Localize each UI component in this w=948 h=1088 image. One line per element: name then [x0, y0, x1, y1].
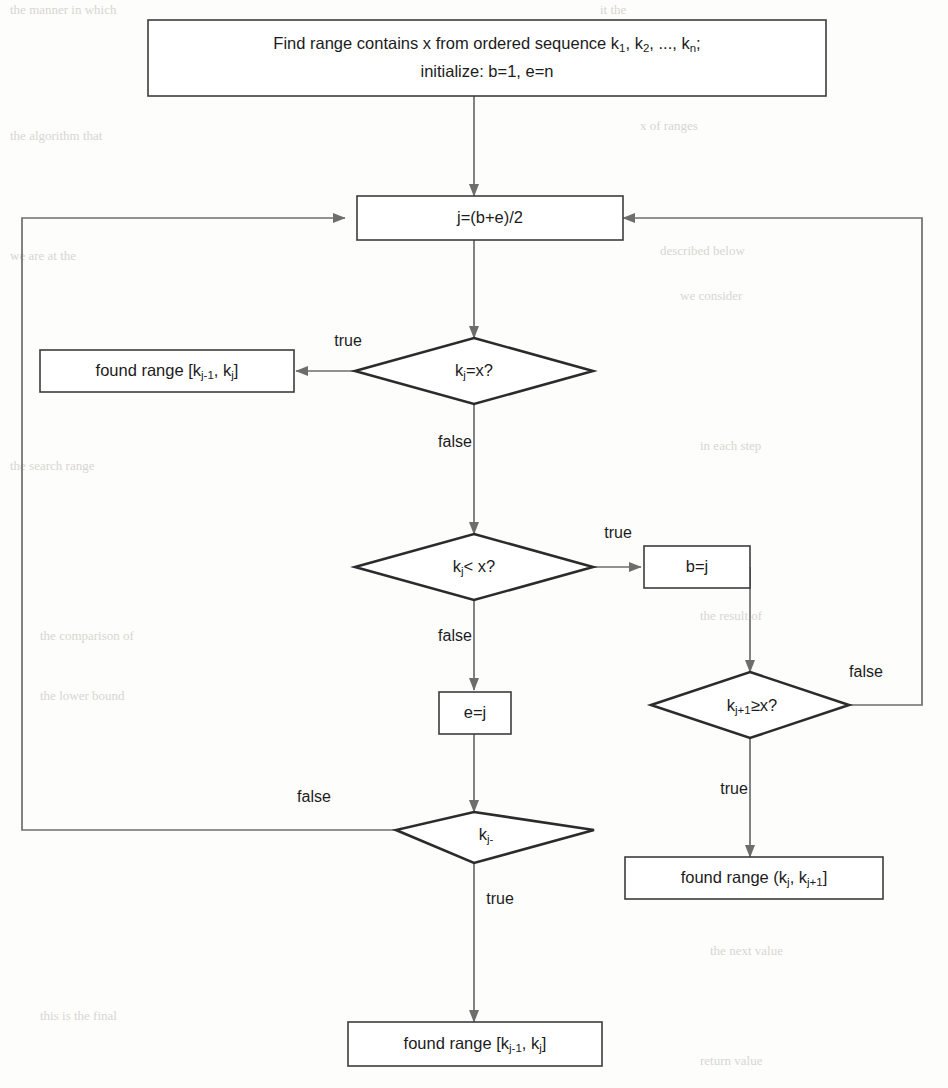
label-less-false: false	[438, 627, 472, 644]
svg-text:x of ranges: x of ranges	[640, 118, 698, 133]
set-e-label: e=j	[464, 703, 486, 721]
node-test-less[interactable]: kj< x?	[355, 534, 593, 600]
node-found-bottom[interactable]: found range [kj-1, kj]	[348, 1022, 602, 1066]
test-less-label: kj< x?	[453, 557, 495, 577]
svg-text:the manner in which: the manner in which	[10, 2, 117, 17]
svg-text:described below: described below	[660, 243, 745, 258]
node-set-e[interactable]: e=j	[439, 692, 511, 734]
label-prev-false: false	[297, 788, 331, 805]
svg-text:it the: it the	[600, 2, 627, 17]
svg-text:we consider: we consider	[680, 288, 743, 303]
start-line-2: initialize: b=1, e=n	[420, 62, 553, 80]
svg-text:the comparison of: the comparison of	[40, 628, 135, 643]
set-b-label: b=j	[686, 557, 708, 575]
node-found-left-upper[interactable]: found range [kj-1, kj]	[40, 350, 294, 392]
svg-text:the result of: the result of	[700, 608, 763, 623]
edge-prev-false-loop	[22, 218, 399, 830]
svg-text:in each step: in each step	[700, 438, 761, 453]
svg-text:the algorithm that: the algorithm that	[10, 128, 103, 143]
found-bottom-label: found range [kj-1, kj]	[404, 1034, 547, 1054]
svg-text:we are at the: we are at the	[10, 248, 76, 263]
label-equal-false: false	[438, 433, 472, 450]
svg-text:return value: return value	[700, 1053, 763, 1068]
svg-text:this is the final: this is the final	[40, 1008, 117, 1023]
label-less-true: true	[604, 524, 632, 541]
node-start[interactable]: Find range contains x from ordered seque…	[148, 20, 826, 96]
label-next-true: true	[720, 780, 748, 797]
found-left-upper-label: found range [kj-1, kj]	[96, 361, 239, 381]
node-test-equal[interactable]: kj=x?	[355, 338, 593, 404]
test-equal-label: kj=x?	[455, 361, 493, 381]
svg-text:the next value: the next value	[710, 943, 783, 958]
node-test-next-ge[interactable]: kj+1≥x?	[651, 672, 849, 738]
edge-next-false-loop	[623, 218, 922, 705]
scan-background-artifacts: the manner in which it the or the sequen…	[10, 2, 783, 1068]
edge-labels: true false true false false true false t…	[297, 332, 883, 907]
flowchart-diagram: the manner in which it the or the sequen…	[0, 0, 948, 1088]
label-prev-true: true	[486, 890, 514, 907]
node-compute-j[interactable]: j=(b+e)/2	[357, 196, 623, 240]
compute-j-label: j=(b+e)/2	[456, 208, 523, 226]
node-test-prev[interactable]: kj-	[396, 812, 594, 863]
start-line-1: Find range contains x from ordered seque…	[273, 34, 700, 54]
start-box-shape	[148, 20, 826, 96]
found-right-label: found range (kj, kj+1]	[681, 868, 828, 888]
svg-text:the lower bound: the lower bound	[40, 688, 125, 703]
label-equal-true: true	[334, 332, 362, 349]
test-prev-diamond-shape	[396, 812, 594, 863]
node-set-b[interactable]: b=j	[644, 546, 750, 588]
node-found-right[interactable]: found range (kj, kj+1]	[625, 857, 883, 899]
label-next-false: false	[849, 663, 883, 680]
test-next-ge-label: kj+1≥x?	[727, 696, 777, 716]
